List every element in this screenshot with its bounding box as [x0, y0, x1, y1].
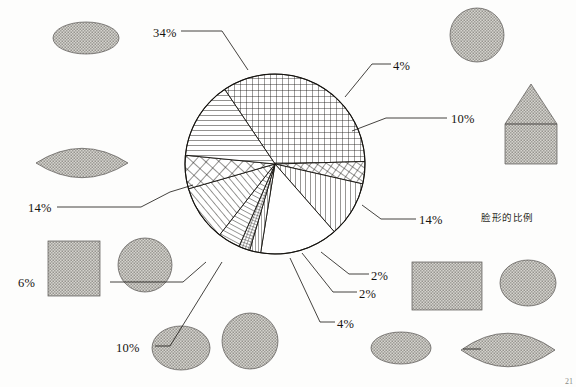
chart-caption: 脸形的比例: [481, 213, 534, 223]
circle-bottom-center: [222, 313, 278, 369]
ellipse-flat-top-left: [53, 22, 119, 54]
label-34: 34%: [153, 27, 177, 40]
circle-lower-left: [118, 238, 172, 292]
ellipse-bottom-right: [500, 260, 556, 306]
label-2-upper: 2%: [371, 270, 388, 283]
page-corner-mark: 21: [565, 377, 573, 386]
figure-canvas: 34%4%10%14%2%2%4%10%6%14% 脸形的比例 21: [0, 0, 576, 387]
leader-2-upper: [321, 252, 369, 274]
leader-4-bottom: [290, 258, 335, 322]
leader-14-right: [362, 205, 416, 219]
ellipse-bottom-left: [152, 326, 210, 370]
label-6-left: 6%: [18, 277, 35, 290]
leader-14-left: [57, 185, 193, 207]
label-4-bottom: 4%: [337, 318, 354, 331]
house-right: [505, 84, 557, 164]
label-2-lower: 2%: [359, 288, 376, 301]
label-10-right: 10%: [451, 113, 475, 126]
pie-slices-layer: [185, 74, 365, 254]
label-14-left: 14%: [28, 202, 52, 215]
rect-bottom-right: [412, 262, 482, 310]
lens-mid-left: [36, 148, 128, 177]
rect-lower-left: [48, 241, 100, 296]
leader-4-top: [345, 64, 391, 97]
circle-top-right: [450, 8, 504, 62]
lens-bottom-right: [461, 333, 555, 367]
ellipse-bottom-far-left: [371, 332, 431, 364]
label-4-top: 4%: [393, 60, 410, 73]
label-10-left: 10%: [116, 342, 140, 355]
label-14-right: 14%: [419, 214, 443, 227]
pie-chart-figure: [0, 0, 576, 387]
leader-34: [181, 31, 248, 70]
leader-10-right: [352, 118, 447, 131]
